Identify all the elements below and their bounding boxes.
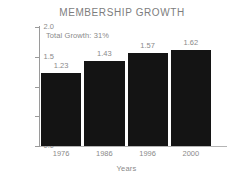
- bar[interactable]: [128, 53, 168, 146]
- bar-slot[interactable]: 1.43: [84, 27, 124, 146]
- x-axis-category-label: 1976: [41, 150, 81, 158]
- x-axis-title: Years: [40, 164, 213, 173]
- bar[interactable]: [171, 50, 211, 146]
- bar-value-label: 1.62: [184, 39, 199, 47]
- bar-slot[interactable]: 1.23: [41, 27, 81, 146]
- bars-layer: 1.231.431.571.62: [40, 27, 213, 146]
- bar-slot[interactable]: 1.62: [171, 27, 211, 146]
- x-axis-category-label: 1996: [128, 150, 168, 158]
- bar-value-label: 1.57: [140, 42, 155, 50]
- bar-chart: MEMBERSHIP GROWTH 0.00.51.01.52.0 Millio…: [0, 0, 244, 177]
- bar[interactable]: [84, 61, 124, 146]
- x-axis-category-label: 1986: [84, 150, 124, 158]
- bar[interactable]: [41, 73, 81, 146]
- x-axis-category-label: 2000: [171, 150, 211, 158]
- bar-slot[interactable]: 1.57: [128, 27, 168, 146]
- chart-title: MEMBERSHIP GROWTH: [0, 7, 244, 18]
- x-axis-line: [39, 146, 227, 147]
- bar-value-label: 1.23: [54, 62, 69, 70]
- total-growth-annotation: Total Growth: 31%: [46, 31, 109, 40]
- bar-value-label: 1.43: [97, 50, 112, 58]
